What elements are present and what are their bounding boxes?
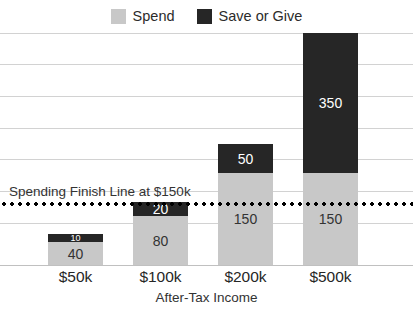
x-tick-label-100k: $100k [133,269,188,285]
bar-group-100k[interactable]: 20 80 [133,202,188,265]
x-tick-label-500k: $500k [303,269,358,285]
bar-segment-save-or-give[interactable]: 350 [303,33,358,173]
bar-value-label: 150 [234,212,257,226]
bar-segment-spend[interactable]: 80 [133,216,188,265]
chart-plot-area: 10 40 20 80 50 150 350 150 Spending Fini… [0,33,413,265]
bar-group-500k[interactable]: 350 150 [303,33,358,265]
bar-segment-save-or-give[interactable]: 50 [218,144,273,173]
x-tick-label-200k: $200k [218,269,273,285]
bar-value-label: 350 [319,96,342,110]
legend-entry-save-or-give: Save or Give [197,9,303,24]
legend-label-save-or-give: Save or Give [219,9,303,24]
bar-value-label: 150 [319,212,342,226]
spending-finish-line [0,202,413,206]
x-tick-label-50k: $50k [48,269,103,285]
square-swatch-icon [111,9,126,24]
bar-segment-save-or-give[interactable]: 10 [48,234,103,242]
bar-segment-spend[interactable]: 150 [303,173,358,265]
legend-label-spend: Spend [133,9,175,24]
square-swatch-icon [197,9,212,24]
bar-group-50k[interactable]: 10 40 [48,234,103,265]
x-axis-tick-labels: $50k $100k $200k $500k [0,266,413,290]
bar-value-label: 10 [70,234,80,242]
reference-line-label: Spending Finish Line at $150k [9,185,191,199]
chart-legend: Spend Save or Give [0,6,413,26]
bar-value-label: 40 [68,247,84,261]
bar-segment-spend[interactable]: 40 [48,242,103,265]
x-axis-title: After-Tax Income [0,291,413,305]
legend-entry-spend: Spend [111,9,175,24]
bar-value-label: 80 [153,234,169,248]
bar-segment-spend[interactable]: 150 [218,173,273,265]
bar-value-label: 50 [238,152,254,166]
